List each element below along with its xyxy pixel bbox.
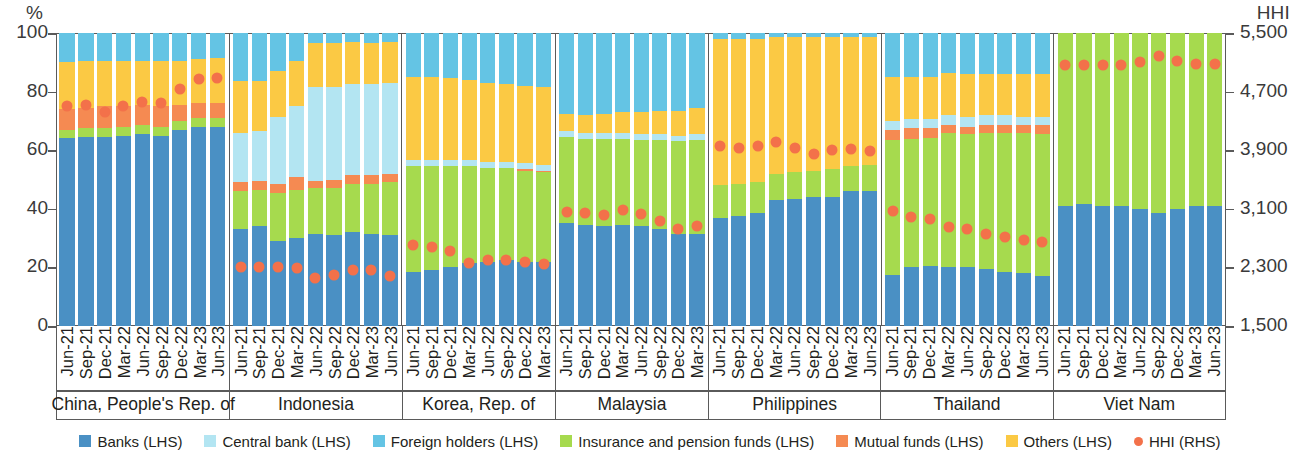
stacked-bar[interactable]	[1095, 33, 1110, 326]
stacked-bar[interactable]	[289, 33, 304, 326]
legend-label: Mutual funds (LHS)	[854, 433, 983, 450]
stacked-bar[interactable]	[1076, 33, 1091, 326]
stacked-bar[interactable]	[843, 33, 858, 326]
hhi-marker	[329, 270, 340, 281]
bar-segment	[689, 234, 704, 326]
stacked-bar[interactable]	[480, 33, 495, 326]
category-date-label: Sep-22	[978, 326, 995, 381]
stacked-bar[interactable]	[424, 33, 439, 326]
stacked-bar[interactable]	[979, 33, 994, 326]
stacked-bar[interactable]	[806, 33, 821, 326]
bar-segment	[769, 174, 784, 200]
bar-segment	[997, 74, 1012, 115]
stacked-bar[interactable]	[78, 33, 93, 326]
stacked-bar[interactable]	[382, 33, 397, 326]
stacked-bar[interactable]	[59, 33, 74, 326]
stacked-bar[interactable]	[750, 33, 765, 326]
stacked-bar[interactable]	[862, 33, 877, 326]
stacked-bar[interactable]	[1207, 33, 1222, 326]
stacked-bar[interactable]	[1132, 33, 1147, 326]
stacked-bar[interactable]	[326, 33, 341, 326]
stacked-bar[interactable]	[689, 33, 704, 326]
stacked-bar[interactable]	[941, 33, 956, 326]
legend-item[interactable]: Banks (LHS)	[79, 433, 182, 450]
bar-segment	[923, 33, 938, 77]
bar-segment	[135, 105, 150, 126]
hhi-marker	[1097, 60, 1108, 71]
stacked-bar[interactable]	[1035, 33, 1050, 326]
stacked-bar[interactable]	[536, 33, 551, 326]
stacked-bar[interactable]	[615, 33, 630, 326]
stacked-bar[interactable]	[1114, 33, 1129, 326]
stacked-bar[interactable]	[1189, 33, 1204, 326]
right-axis-tick-mark	[1226, 33, 1234, 35]
category-date-labels: Jun-21Sep-21Dec-21Mar-22Jun-22Sep-22Dec-…	[403, 326, 555, 390]
bar-segment	[326, 33, 341, 43]
stacked-bar[interactable]	[153, 33, 168, 326]
hhi-marker	[1209, 58, 1220, 69]
bar-segment	[862, 165, 877, 191]
stacked-bar[interactable]	[671, 33, 686, 326]
stacked-bar[interactable]	[769, 33, 784, 326]
stacked-bar[interactable]	[233, 33, 248, 326]
bar-segment	[116, 136, 131, 326]
stacked-bar[interactable]	[1058, 33, 1073, 326]
legend-item[interactable]: Foreign holders (LHS)	[373, 433, 539, 450]
bar-segment	[1114, 206, 1129, 326]
stacked-bar[interactable]	[731, 33, 746, 326]
bar-segment	[499, 260, 514, 326]
hhi-marker	[845, 143, 856, 154]
stacked-bar[interactable]	[885, 33, 900, 326]
stacked-bar[interactable]	[960, 33, 975, 326]
stacked-bar[interactable]	[634, 33, 649, 326]
stacked-bar[interactable]	[652, 33, 667, 326]
category-date-label: Dec-21	[921, 326, 938, 381]
legend-item[interactable]: Insurance and pension funds (LHS)	[560, 433, 814, 450]
stacked-bar[interactable]	[270, 33, 285, 326]
hhi-marker	[981, 228, 992, 239]
stacked-bar[interactable]	[713, 33, 728, 326]
stacked-bar[interactable]	[1170, 33, 1185, 326]
stacked-bar[interactable]	[596, 33, 611, 326]
stacked-bar[interactable]	[172, 33, 187, 326]
stacked-bar[interactable]	[1016, 33, 1031, 326]
stacked-bar[interactable]	[997, 33, 1012, 326]
stacked-bar[interactable]	[345, 33, 360, 326]
bar-segment	[1016, 33, 1031, 74]
hhi-marker	[598, 209, 609, 220]
legend-item[interactable]: Central bank (LHS)	[204, 433, 350, 450]
hhi-marker	[538, 259, 549, 270]
stacked-bar[interactable]	[252, 33, 267, 326]
stacked-bar[interactable]	[578, 33, 593, 326]
stacked-bar[interactable]	[904, 33, 919, 326]
stacked-bar[interactable]	[923, 33, 938, 326]
stacked-bar[interactable]	[308, 33, 323, 326]
stacked-bar[interactable]	[135, 33, 150, 326]
bar-segment	[382, 83, 397, 174]
bar-segment	[671, 141, 686, 233]
stacked-bar[interactable]	[787, 33, 802, 326]
stacked-bar[interactable]	[364, 33, 379, 326]
stacked-bar[interactable]	[559, 33, 574, 326]
stacked-bar[interactable]	[499, 33, 514, 326]
category-date-label: Mar-22	[289, 326, 306, 380]
category-date-label: Jun-23	[862, 326, 879, 378]
bar-segment	[652, 229, 667, 326]
stacked-bar[interactable]	[517, 33, 532, 326]
panel-title: Thailand	[881, 390, 1052, 419]
legend-item[interactable]: Others (LHS)	[1006, 433, 1112, 450]
bar-segment	[885, 130, 900, 140]
stacked-bar[interactable]	[462, 33, 477, 326]
stacked-bar[interactable]	[97, 33, 112, 326]
stacked-bar[interactable]	[825, 33, 840, 326]
stacked-bar[interactable]	[443, 33, 458, 326]
bar-segment	[536, 262, 551, 326]
legend-item[interactable]: HHI (RHS)	[1134, 433, 1221, 450]
bar-segment	[153, 136, 168, 326]
stacked-bar[interactable]	[406, 33, 421, 326]
stacked-bar[interactable]	[116, 33, 131, 326]
stacked-bar[interactable]	[191, 33, 206, 326]
stacked-bar[interactable]	[1151, 33, 1166, 326]
legend-item[interactable]: Mutual funds (LHS)	[836, 433, 983, 450]
stacked-bar[interactable]	[210, 33, 225, 326]
